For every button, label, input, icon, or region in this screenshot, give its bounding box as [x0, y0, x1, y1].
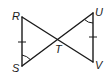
label-v: V [95, 59, 104, 71]
label-s: S [12, 62, 20, 74]
label-t: T [55, 43, 63, 55]
angle-arc-s [22, 55, 31, 60]
angle-arc-u [85, 20, 94, 24]
label-r: R [12, 10, 20, 22]
label-u: U [95, 6, 103, 18]
geometry-diagram: R S T U V [0, 0, 110, 80]
segment-su [22, 13, 93, 66]
